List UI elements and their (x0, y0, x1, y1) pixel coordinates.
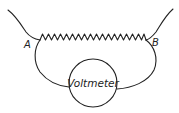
circuit-diagram: Voltmeter A B (0, 0, 179, 113)
left-lead-wire (8, 10, 40, 40)
right-lead-wire (146, 9, 173, 40)
point-a-label: A (23, 39, 31, 50)
resistor-zigzag (40, 34, 146, 40)
point-b-label: B (152, 37, 159, 48)
left-meter-wire (35, 40, 69, 87)
voltmeter-label: Voltmeter (67, 77, 119, 89)
right-meter-wire (117, 40, 156, 89)
